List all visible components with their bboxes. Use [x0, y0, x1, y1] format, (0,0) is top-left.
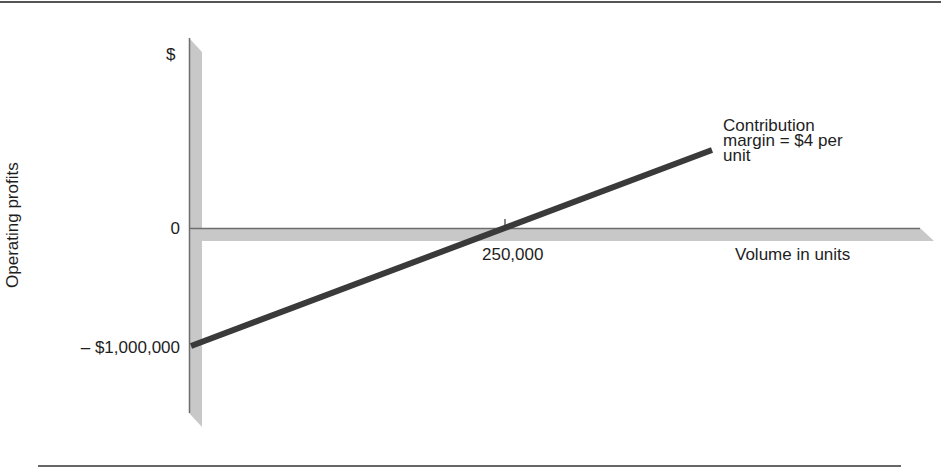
x-axis-title: Volume in units	[735, 246, 850, 264]
contribution-margin-annotation: Contribution margin = $4 per unit	[723, 118, 843, 163]
profit-line	[191, 150, 712, 346]
chart-plot	[0, 0, 941, 470]
x-axis-bar	[189, 228, 934, 241]
y-axis-title: Operating profits	[3, 162, 23, 288]
annotation-line-3: unit	[723, 148, 843, 163]
y-unit-label: $	[166, 46, 175, 64]
bottom-rule	[38, 465, 901, 467]
x-tick-breakeven: 250,000	[482, 246, 543, 264]
y-tick-zero: 0	[150, 220, 180, 238]
y-tick-fixed-cost: – $1,000,000	[30, 339, 180, 357]
